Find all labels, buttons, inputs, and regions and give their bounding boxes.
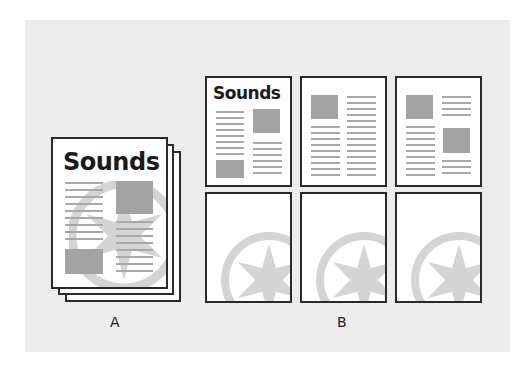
- grid-b-page-1: Sounds: [205, 76, 292, 187]
- grid-b-page-2: [300, 76, 387, 187]
- page-title: Sounds: [213, 83, 280, 103]
- stack-front-page: Sounds: [51, 137, 168, 289]
- grid-b-page-4: [205, 192, 292, 303]
- grid-b-page-5: [300, 192, 387, 303]
- label-b: B: [337, 314, 347, 330]
- label-a: A: [110, 314, 120, 330]
- image-placeholder: [116, 181, 153, 214]
- image-placeholder: [65, 249, 103, 274]
- page-title: Sounds: [63, 148, 159, 176]
- image-placeholder: [311, 95, 338, 119]
- grid-b-page-3: [395, 76, 482, 187]
- image-placeholder: [406, 95, 433, 119]
- image-placeholder: [253, 109, 280, 133]
- wheel-watermark-icon: [409, 230, 482, 303]
- grid-b-page-6: [395, 192, 482, 303]
- wheel-watermark-icon: [219, 230, 292, 303]
- image-placeholder: [443, 128, 470, 153]
- image-placeholder: [216, 160, 244, 178]
- wheel-watermark-icon: [314, 230, 387, 303]
